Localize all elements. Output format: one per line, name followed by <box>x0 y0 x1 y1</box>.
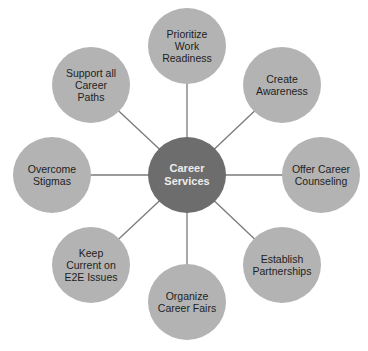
career-services-hub-diagram: Prioritize Work Readiness Create Awarene… <box>0 0 368 351</box>
node-label: Overcome Stigmas <box>28 163 76 187</box>
hub-career-services: Career Services <box>148 137 226 213</box>
node-label: Organize Career Fairs <box>158 290 216 314</box>
node-label: Establish Partnerships <box>253 253 312 277</box>
node-offer-career-counseling: Offer Career Counseling <box>282 137 360 213</box>
node-create-awareness: Create Awareness <box>243 47 321 123</box>
hub-label: Career Services <box>164 162 209 188</box>
node-label: Prioritize Work Readiness <box>162 28 212 64</box>
node-label: Support all Career Paths <box>66 67 116 103</box>
node-overcome-stigmas: Overcome Stigmas <box>13 137 91 213</box>
node-organize-career-fairs: Organize Career Fairs <box>148 264 226 340</box>
node-keep-current-e2e-issues: Keep Current on E2E Issues <box>52 227 130 303</box>
node-label: Keep Current on E2E Issues <box>64 247 117 283</box>
node-support-all-career-paths: Support all Career Paths <box>52 47 130 123</box>
node-prioritize-work-readiness: Prioritize Work Readiness <box>148 8 226 84</box>
node-establish-partnerships: Establish Partnerships <box>243 227 321 303</box>
node-label: Offer Career Counseling <box>292 163 350 187</box>
node-label: Create Awareness <box>256 73 308 97</box>
